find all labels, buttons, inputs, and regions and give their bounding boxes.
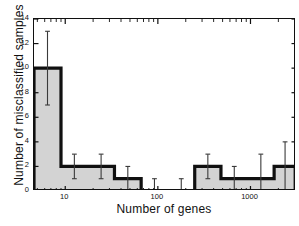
histogram-fill [34, 68, 295, 190]
x-tick-label: 100 [151, 192, 164, 201]
histogram-svg [34, 19, 295, 190]
chart-figure: 02468101214 101001000 Number of genes Nu… [0, 0, 299, 226]
axis-ticks [34, 19, 295, 190]
plot-area [33, 18, 295, 190]
x-axis-title: Number of genes [33, 202, 295, 216]
x-tick-label: 1000 [241, 192, 258, 201]
x-tick-label: 10 [60, 192, 68, 201]
y-axis-title: Number of misclassified samples [12, 2, 26, 188]
